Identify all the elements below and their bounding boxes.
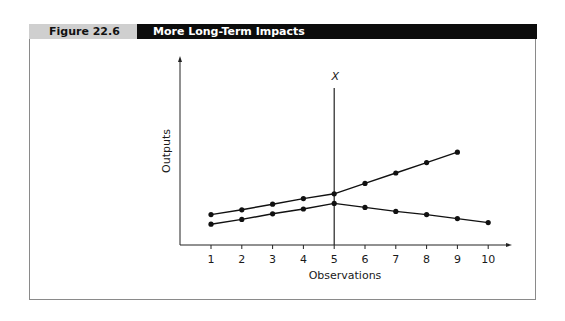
x-tick-label: 9 [454, 253, 461, 266]
series-line-lower [211, 203, 488, 224]
data-point [332, 201, 337, 206]
line-chart: 12345678910XObservationsOutputs [0, 0, 565, 321]
x-tick-label: 5 [331, 253, 338, 266]
x-tick-label: 10 [481, 253, 495, 266]
data-point [270, 211, 275, 216]
x-axis-arrow-icon [506, 243, 512, 247]
data-point [455, 150, 460, 155]
x-tick-label: 7 [392, 253, 399, 266]
data-point [393, 170, 398, 175]
x-axis-label: Observations [309, 269, 382, 282]
data-point [239, 217, 244, 222]
x-tick-label: 6 [362, 253, 369, 266]
x-tick-label: 2 [238, 253, 245, 266]
axes [178, 56, 512, 249]
data-point [455, 216, 460, 221]
x-tick-label: 4 [300, 253, 307, 266]
x-tick-label: 1 [208, 253, 215, 266]
data-point [486, 220, 491, 225]
data-point [393, 209, 398, 214]
data-point [362, 181, 367, 186]
y-axis-label: Outputs [160, 129, 173, 173]
y-axis-arrow-icon [178, 56, 182, 62]
data-point [301, 206, 306, 211]
data-point [424, 212, 429, 217]
x-marker-label: X [330, 70, 339, 83]
x-tick-label: 3 [269, 253, 276, 266]
data-point [208, 212, 213, 217]
series-group [208, 150, 490, 227]
data-point [301, 196, 306, 201]
data-point [424, 160, 429, 165]
data-point [362, 205, 367, 210]
data-point [332, 191, 337, 196]
data-point [208, 222, 213, 227]
x-tick-label: 8 [423, 253, 430, 266]
data-point [270, 202, 275, 207]
data-point [239, 207, 244, 212]
labels-group: 12345678910XObservationsOutputs [160, 70, 495, 282]
